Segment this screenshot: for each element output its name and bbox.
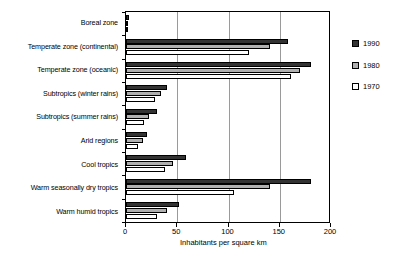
y-tick <box>122 129 126 130</box>
bar-1970 <box>126 50 249 55</box>
bar-1970 <box>126 214 157 219</box>
category-label: Temperate zone (continental) <box>0 35 122 59</box>
legend-entry-1990: 1990 <box>352 40 380 48</box>
category-axis: Boreal zoneTemperate zone (continental)T… <box>0 11 122 223</box>
category-label: Warm humid tropics <box>0 200 122 224</box>
bar-1970 <box>126 97 155 102</box>
category-label: Boreal zone <box>0 11 122 35</box>
bar-group <box>126 152 329 175</box>
bar-group <box>126 129 329 152</box>
legend-label: 1970 <box>363 83 380 91</box>
chart-legend: 199019801970 <box>352 40 380 91</box>
x-tick-label: 0 <box>123 228 127 236</box>
x-tick-label: 100 <box>221 228 234 236</box>
bar-1990 <box>126 39 288 44</box>
bars-layer <box>126 12 329 222</box>
bar-group <box>126 105 329 128</box>
x-tick-label: 200 <box>324 228 337 236</box>
bar-chart-figure: Boreal zoneTemperate zone (continental)T… <box>0 0 402 260</box>
category-label: Subtropics (summer rains) <box>0 105 122 129</box>
legend-swatch-icon <box>352 40 359 47</box>
bar-1990 <box>126 15 129 20</box>
bar-1980 <box>126 68 300 73</box>
bar-1970 <box>126 120 144 125</box>
bar-1970 <box>126 27 128 32</box>
legend-swatch-icon <box>352 83 359 90</box>
bar-group <box>126 35 329 58</box>
bar-1980 <box>126 91 161 96</box>
bar-1980 <box>126 208 167 213</box>
category-label: Cool tropics <box>0 152 122 176</box>
bar-1980 <box>126 184 270 189</box>
bar-group <box>126 59 329 82</box>
legend-swatch-icon <box>352 62 359 69</box>
bar-1980 <box>126 161 173 166</box>
category-label: Temperate zone (oceanic) <box>0 58 122 82</box>
bar-group <box>126 175 329 198</box>
y-tick <box>122 59 126 60</box>
bar-1970 <box>126 74 291 79</box>
legend-label: 1990 <box>363 40 380 48</box>
y-tick <box>122 35 126 36</box>
bar-1980 <box>126 44 270 49</box>
bar-1990 <box>126 179 311 184</box>
bar-1990 <box>126 155 186 160</box>
bar-1990 <box>126 85 167 90</box>
legend-entry-1980: 1980 <box>352 62 380 70</box>
bar-1990 <box>126 202 179 207</box>
bar-group <box>126 199 329 222</box>
bar-1970 <box>126 190 234 195</box>
y-tick <box>122 152 126 153</box>
bar-1980 <box>126 21 128 26</box>
x-axis-title: Inhabitants per square km <box>180 239 360 247</box>
y-tick <box>122 82 126 83</box>
legend-label: 1980 <box>363 62 380 70</box>
y-tick <box>122 105 126 106</box>
y-tick <box>122 175 126 176</box>
legend-entry-1970: 1970 <box>352 83 380 91</box>
bar-1970 <box>126 167 165 172</box>
x-tick-label: 150 <box>272 228 285 236</box>
bar-1990 <box>126 109 157 114</box>
bar-1970 <box>126 144 138 149</box>
category-label: Arid regions <box>0 129 122 153</box>
bar-group <box>126 12 329 35</box>
category-label: Warm seasonally dry tropics <box>0 176 122 200</box>
y-tick <box>122 12 126 13</box>
bar-1980 <box>126 138 143 143</box>
x-tick-label: 50 <box>172 228 180 236</box>
bar-1980 <box>126 114 149 119</box>
category-label: Subtropics (winter rains) <box>0 82 122 106</box>
bar-group <box>126 82 329 105</box>
y-tick <box>122 199 126 200</box>
bar-1990 <box>126 132 147 137</box>
bar-1990 <box>126 62 311 67</box>
plot-area <box>125 11 330 223</box>
